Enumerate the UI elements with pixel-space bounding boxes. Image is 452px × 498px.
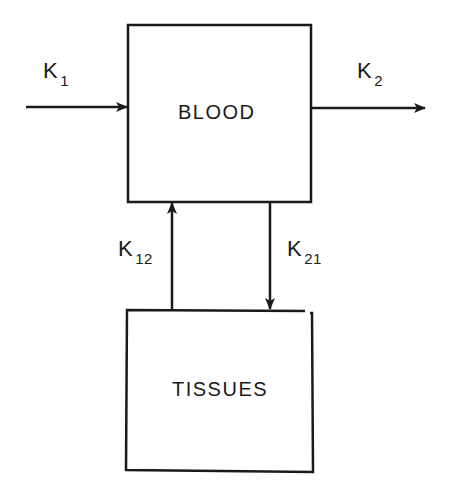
- k21-subscript: 21: [304, 250, 322, 267]
- blood-label: BLOOD: [178, 101, 256, 124]
- k1-label: K1: [43, 58, 69, 84]
- k21-label: K21: [287, 236, 322, 262]
- tissues-label: TISSUES: [172, 378, 268, 401]
- k1-subscript: 1: [60, 72, 69, 89]
- k12-subscript: 12: [135, 250, 153, 267]
- k2-label: K2: [357, 58, 383, 84]
- k12-label: K12: [118, 236, 153, 262]
- k2-subscript: 2: [374, 72, 383, 89]
